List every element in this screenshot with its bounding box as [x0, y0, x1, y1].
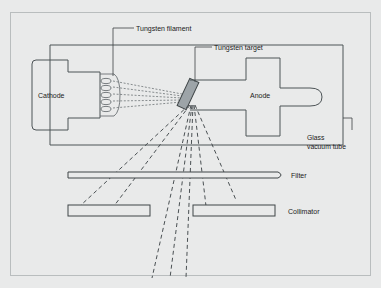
tungsten-target-leader	[195, 47, 212, 82]
collimator-left	[68, 205, 150, 216]
collimator-label: Collimator	[288, 208, 320, 215]
glass-vacuum-tube-leader	[343, 118, 352, 130]
xray-beam-fan	[80, 105, 236, 278]
glass-vacuum-tube	[50, 45, 343, 145]
cathode-label: Cathode	[38, 92, 65, 99]
filter	[68, 172, 281, 178]
tungsten-filament	[100, 74, 120, 116]
tungsten-filament-leader	[113, 28, 134, 76]
filter-label: Filter	[291, 172, 307, 179]
diagram-canvas: Cathode An	[0, 0, 381, 288]
collimator-right	[193, 205, 275, 216]
tungsten-target-label: Tungsten target	[214, 44, 263, 52]
glass-vacuum-tube-label-line1: Glass	[307, 134, 325, 141]
tungsten-filament-label: Tungsten filament	[136, 25, 191, 33]
filament-coil	[101, 78, 111, 111]
glass-vacuum-tube-label-line2: vacuum tube	[307, 143, 346, 150]
electron-beam	[113, 81, 182, 108]
anode-label: Anode	[250, 92, 270, 99]
